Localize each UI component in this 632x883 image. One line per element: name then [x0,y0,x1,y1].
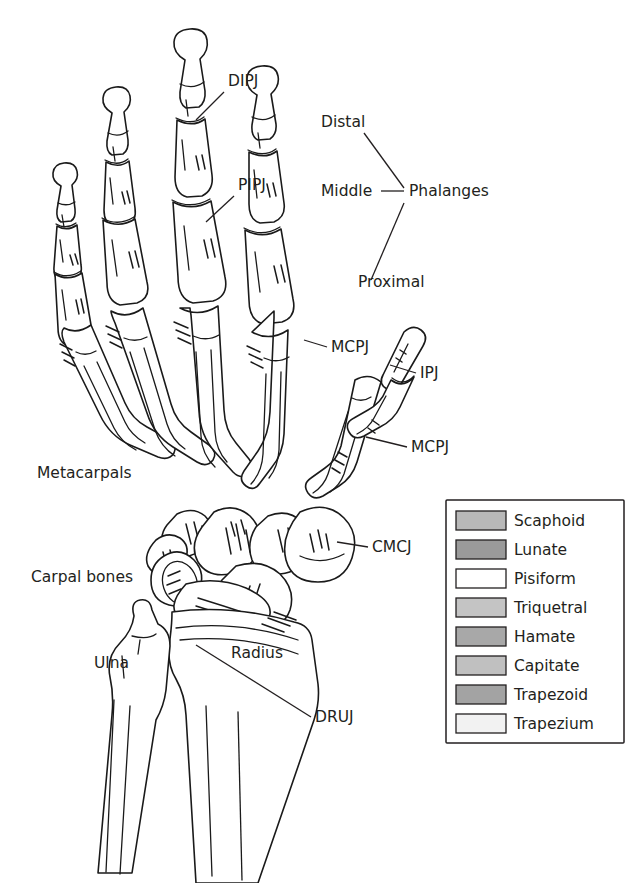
legend-label-pisiform: Pisiform [514,570,576,588]
carpal-trapezium [285,507,355,582]
leader-distal [364,133,404,188]
legend-swatch-trapezoid [456,685,506,704]
legend-label-trapezoid: Trapezoid [513,686,588,704]
legend-swatch-hamate [456,627,506,646]
legend-swatch-lunate [456,540,506,559]
label-phalanges: Phalanges [409,182,489,200]
legend-label-capitate: Capitate [514,657,580,675]
label-pipj: PIPJ [238,176,266,194]
label-radius: Radius [231,644,283,662]
legend: Scaphoid Lunate Pisiform Triquetral Hama… [446,500,624,743]
label-cmcj: CMCJ [372,538,412,556]
legend-label-triquetral: Triquetral [513,599,587,617]
legend-border [446,500,624,743]
diagram-canvas: DIPJ PIPJ Distal Middle Phalanges Proxim… [0,0,632,883]
label-mcpj-thumb: MCPJ [411,438,449,456]
label-carpal-bones: Carpal bones [31,568,133,586]
bone-group-forearm [98,600,319,883]
label-distal: Distal [321,113,365,131]
label-dipj: DIPJ [228,72,258,90]
legend-label-scaphoid: Scaphoid [514,512,585,530]
label-middle: Middle [321,182,372,200]
label-druj: DRUJ [315,708,354,726]
legend-swatch-triquetral [456,598,506,617]
bone-group-index-finger [244,66,294,324]
legend-label-lunate: Lunate [514,541,567,559]
label-ipj: IPJ [420,364,439,382]
legend-swatch-capitate [456,656,506,675]
label-ulna: Ulna [94,654,129,672]
hand-skeleton-diagram: DIPJ PIPJ Distal Middle Phalanges Proxim… [0,0,632,883]
bone-group-little-finger [53,163,92,346]
legend-label-trapezium: Trapezium [513,715,594,733]
leader-mcpj-index [304,340,327,347]
leader-mcpj-thumb [366,437,407,447]
label-metacarpals: Metacarpals [37,464,132,482]
legend-swatch-pisiform [456,569,506,588]
bone-group-ring-finger [102,87,148,305]
bone-group-middle-finger [172,29,226,303]
legend-swatch-scaphoid [456,511,506,530]
label-mcpj-index: MCPJ [331,338,369,356]
label-proximal: Proximal [358,273,425,291]
legend-label-hamate: Hamate [514,628,575,646]
leader-proximal [371,203,404,280]
legend-swatch-trapezium [456,714,506,733]
